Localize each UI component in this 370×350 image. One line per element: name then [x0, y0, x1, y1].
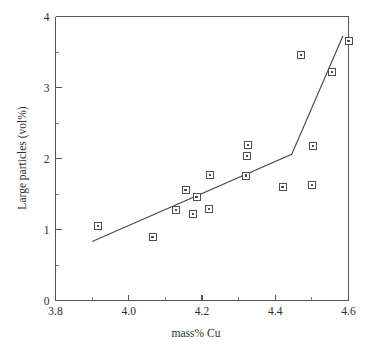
data-point-marker: [149, 233, 156, 240]
marker-center-dot: [312, 145, 314, 147]
data-point-marker: [297, 51, 304, 58]
marker-center-dot: [245, 174, 247, 176]
marker-center-dot: [300, 54, 302, 56]
data-point-marker: [329, 68, 336, 75]
data-point-marker: [206, 205, 213, 212]
marker-center-dot: [208, 208, 210, 210]
data-point-marker: [243, 152, 250, 159]
marker-center-dot: [347, 40, 349, 42]
data-point-marker: [189, 210, 196, 217]
y-tick-label: 2: [44, 153, 50, 165]
marker-center-dot: [246, 155, 248, 157]
y-tick-label: 1: [44, 224, 50, 236]
marker-center-dot: [195, 196, 197, 198]
marker-center-dot: [175, 209, 177, 211]
x-tick-label: 4.4: [268, 305, 283, 317]
chart-figure: 3.84.04.24.44.6 01234 mass% Cu Large par…: [0, 0, 370, 350]
trend-line: [92, 36, 343, 242]
marker-center-dot: [184, 189, 186, 191]
y-tick-label: 0: [44, 295, 50, 307]
trend-line-path: [92, 36, 343, 242]
data-point-marker: [193, 193, 200, 200]
data-point-marker: [207, 171, 214, 178]
x-tick-label: 3.8: [48, 305, 63, 317]
data-point-marker: [244, 142, 251, 149]
scatter-plot: 3.84.04.24.44.6 01234 mass% Cu Large par…: [0, 0, 370, 350]
data-point-marker: [279, 183, 286, 190]
data-point-marker: [309, 142, 316, 149]
axes: [56, 17, 349, 301]
x-tick-label: 4.0: [122, 305, 137, 317]
x-tick-labels: 3.84.04.24.44.6: [48, 305, 356, 317]
x-tick-label: 4.2: [195, 305, 210, 317]
data-point-marker: [94, 222, 101, 229]
data-point-marker: [182, 186, 189, 193]
y-tick-label: 4: [44, 11, 50, 23]
data-point-marker: [345, 37, 352, 44]
marker-center-dot: [97, 225, 99, 227]
data-points: [94, 37, 352, 240]
data-point-marker: [242, 172, 249, 179]
marker-center-dot: [192, 213, 194, 215]
data-point-marker: [173, 207, 180, 214]
data-point-marker: [308, 181, 315, 188]
marker-center-dot: [151, 236, 153, 238]
marker-center-dot: [247, 144, 249, 146]
marker-center-dot: [209, 174, 211, 176]
y-tick-labels: 01234: [44, 11, 50, 307]
x-axis-title: mass% Cu: [172, 327, 221, 339]
marker-center-dot: [311, 184, 313, 186]
axis-ticks: [56, 17, 349, 301]
x-tick-label: 4.6: [341, 305, 356, 317]
y-axis-title: Large particles (vol%): [16, 106, 29, 209]
y-tick-label: 3: [44, 82, 50, 94]
marker-center-dot: [281, 186, 283, 188]
marker-center-dot: [331, 71, 333, 73]
